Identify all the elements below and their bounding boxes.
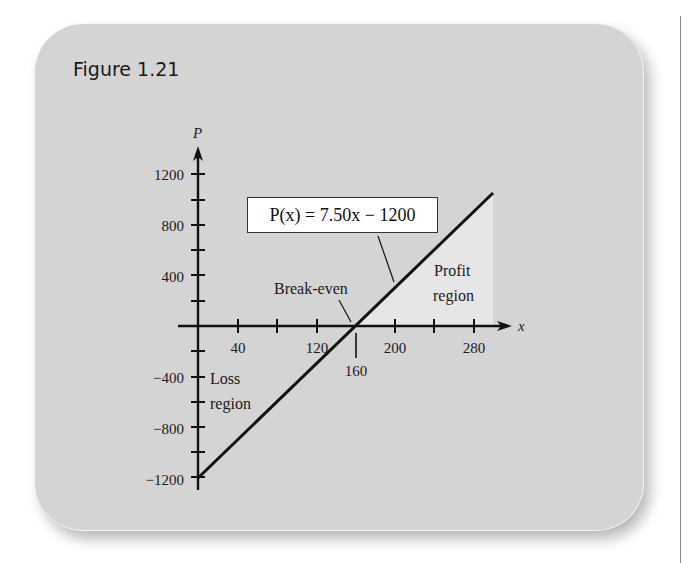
svg-text:1200: 1200: [154, 167, 184, 183]
profit-function-line: [198, 193, 493, 478]
svg-text:160: 160: [345, 363, 368, 379]
svg-text:−400: −400: [153, 370, 184, 386]
svg-text:−1200: −1200: [146, 472, 184, 488]
svg-text:200: 200: [384, 340, 407, 356]
svg-text:−800: −800: [153, 421, 184, 437]
break-even-leader-line: [339, 300, 351, 322]
break-even-chart: P x 1200 800 400 −400 −800 −1200 40 120 …: [0, 0, 690, 563]
svg-text:800: 800: [162, 218, 185, 234]
profit-region-label-2: region: [433, 287, 474, 305]
y-axis-label: P: [192, 125, 202, 141]
profit-region-label-1: Profit: [434, 262, 471, 279]
svg-text:280: 280: [463, 340, 486, 356]
equation-leader-line: [378, 236, 394, 282]
loss-region-label-2: region: [210, 395, 251, 413]
loss-region-label-1: Loss: [210, 370, 240, 387]
break-even-label: Break-even: [274, 280, 348, 297]
x-axis-label: x: [517, 318, 525, 334]
svg-text:40: 40: [231, 340, 246, 356]
x-tick-labels: 40 120 160 200 280: [231, 340, 486, 379]
equation-label-box: P(x) = 7.50x − 1200: [247, 197, 438, 233]
svg-text:400: 400: [162, 269, 185, 285]
y-tick-labels: 1200 800 400 −400 −800 −1200: [146, 167, 184, 488]
